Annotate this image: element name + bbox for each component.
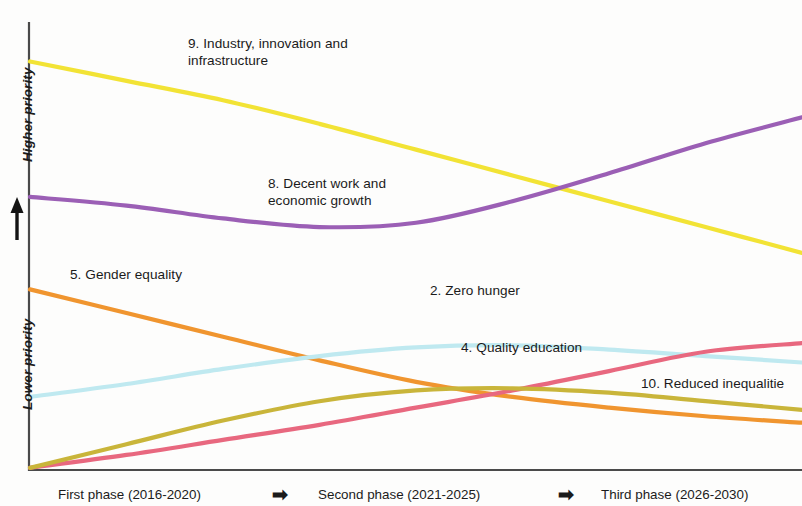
series-label-quality-education: 4. Quality education	[461, 340, 582, 357]
up-arrow-icon	[11, 197, 24, 240]
series-label-zero-hunger: 2. Zero hunger	[430, 283, 520, 300]
phase-arrow-icon-1: ➡	[272, 488, 287, 501]
series-label-gender-equality: 5. Gender equality	[70, 267, 182, 284]
series-line-8-decent-work-and-economic-growth	[30, 117, 802, 227]
x-axis-label-third-phase: Third phase (2026-2030)	[601, 487, 748, 502]
chart-plot-area	[0, 0, 802, 506]
series-label-decent-work-economic-growth: 8. Decent work and economic growth	[268, 176, 386, 209]
x-axis-phase-row: First phase (2016-2020) ➡ Second phase (…	[0, 483, 802, 505]
y-axis-lower-priority-label: Lower priority	[20, 319, 35, 410]
series-line-10-reduced-inequalities	[30, 388, 802, 468]
series-line-4-quality-education	[30, 343, 802, 468]
series-label-industry-innovation-infrastructure: 9. Industry, innovation and infrastructu…	[188, 36, 348, 69]
y-axis-higher-priority-label: Higher priority	[20, 67, 35, 162]
priority-evolution-chart: Higher priority Lower priority 9. Indust…	[0, 0, 802, 506]
x-axis-label-first-phase: First phase (2016-2020)	[58, 487, 201, 502]
x-axis-label-second-phase: Second phase (2021-2025)	[318, 487, 480, 502]
phase-arrow-icon-2: ➡	[558, 488, 573, 501]
series-layer	[30, 62, 802, 468]
series-label-reduced-inequalities: 10. Reduced inequalitie	[641, 376, 784, 393]
